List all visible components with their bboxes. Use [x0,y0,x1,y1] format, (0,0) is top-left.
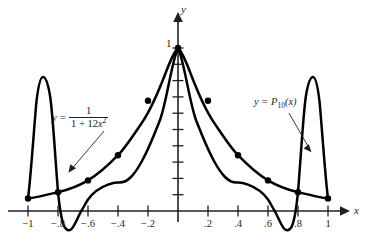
annotation-left-numerator: 1 [69,106,108,117]
annotation-right-subscript: 10 [277,101,285,110]
annotation-right-arg: (x) [285,96,297,107]
node-dot [235,152,241,158]
node-dot [25,195,31,201]
xtick-label-0.2: .2 [198,219,218,230]
annotation-right-lhs: y = P [254,96,277,107]
node-dot [145,98,151,104]
node-dot [115,152,121,158]
x-axis-label: x [354,205,359,216]
runge-phenomenon-figure: −1 −.8 −.6 −.4 −.2 .2 .4 .6 .8 1 1 y x y… [0,0,369,241]
node-dot [85,177,91,183]
xtick-label-1: 1 [318,219,338,230]
xtick-label--0.8: −.8 [48,219,68,230]
node-dot [325,195,331,201]
xtick-label--0.2: −.2 [138,219,158,230]
annotation-polynomial: y = P10(x) [254,97,297,108]
x-axis-arrowhead [340,206,350,216]
annotation-rational-function: y = 1 1 + 12x2 [52,107,108,131]
xtick-label-0.6: .6 [258,219,278,230]
annotation-left-fraction: 1 1 + 12x2 [69,106,108,130]
annotation-left-denominator: 1 + 12x2 [69,119,108,130]
ytick-label-1: 1 [166,38,172,49]
exponent: 2 [103,116,107,125]
node-dot [205,98,211,104]
xtick-label-0.8: .8 [288,219,308,230]
y-axis-label: y [181,4,186,15]
xtick-label--0.6: −.6 [78,219,98,230]
node-dot [175,45,181,51]
annotation-left-lhs: y = [52,112,66,123]
xtick-label-0.4: .4 [228,219,248,230]
left-annotation-leader [69,131,105,173]
xtick-label--1: −1 [18,219,38,230]
node-dot [55,189,61,195]
xtick-label--0.4: −.4 [108,219,128,230]
node-dot [265,177,271,183]
node-dot [295,189,301,195]
